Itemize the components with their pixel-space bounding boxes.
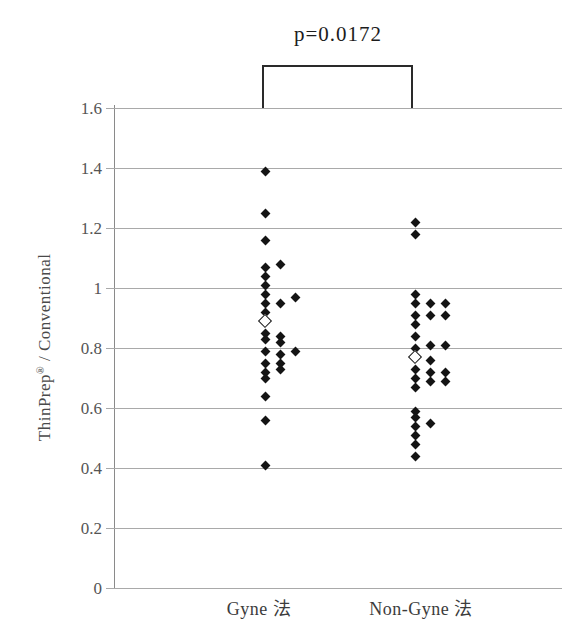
data-point-diamond — [275, 259, 285, 269]
gridline — [106, 408, 562, 409]
gridline — [106, 588, 562, 589]
data-point-diamond — [410, 451, 420, 461]
gridline — [106, 348, 562, 349]
y-tick-label: 1 — [42, 280, 102, 297]
gridline — [106, 108, 562, 109]
data-point-diamond — [425, 298, 435, 308]
data-point-diamond — [275, 337, 285, 347]
x-category-label: Gyne 法 — [179, 594, 339, 620]
open-diamond-mean-marker — [257, 313, 271, 327]
registered-trademark-symbol: ® — [35, 366, 46, 374]
open-diamond-mean-marker — [407, 349, 421, 363]
data-point-diamond — [410, 298, 420, 308]
gridline — [106, 228, 562, 229]
data-point-diamond — [425, 355, 435, 365]
data-point-diamond — [290, 292, 300, 302]
data-point-diamond — [440, 310, 450, 320]
gridline — [106, 528, 562, 529]
data-point-diamond — [410, 229, 420, 239]
data-point-diamond — [440, 298, 450, 308]
y-tick-label: 0.8 — [42, 340, 102, 357]
data-point-diamond — [425, 418, 435, 428]
y-tick-label: 1.6 — [42, 100, 102, 117]
y-axis-line — [114, 105, 115, 588]
data-point-diamond — [410, 217, 420, 227]
data-point-diamond — [410, 439, 420, 449]
x-category-label: Non-Gyne 法 — [341, 594, 501, 620]
data-point-diamond — [440, 376, 450, 386]
data-point-diamond — [260, 373, 270, 383]
significance-bracket — [262, 65, 413, 108]
figure: p=0.0172 ThinPrep® / Conventional 00.20.… — [0, 0, 580, 643]
data-point-diamond — [410, 331, 420, 341]
data-point-diamond — [260, 235, 270, 245]
data-point-diamond — [275, 298, 285, 308]
gridline — [106, 468, 562, 469]
data-point-diamond — [425, 310, 435, 320]
gridline — [106, 168, 562, 169]
data-point-diamond — [275, 364, 285, 374]
data-point-diamond — [260, 334, 270, 344]
gridline — [106, 288, 562, 289]
y-tick-label: 1.2 — [42, 220, 102, 237]
y-tick-label: 0.6 — [42, 400, 102, 417]
y-tick-label: 0.4 — [42, 460, 102, 477]
data-point-diamond — [260, 208, 270, 218]
data-point-diamond — [260, 391, 270, 401]
data-point-diamond — [410, 382, 420, 392]
y-tick-label: 0 — [42, 580, 102, 597]
data-point-diamond — [410, 319, 420, 329]
y-tick-label: 0.2 — [42, 520, 102, 537]
p-value-label: p=0.0172 — [262, 22, 414, 47]
data-point-diamond — [425, 376, 435, 386]
y-tick-label: 1.4 — [42, 160, 102, 177]
data-point-diamond — [260, 415, 270, 425]
